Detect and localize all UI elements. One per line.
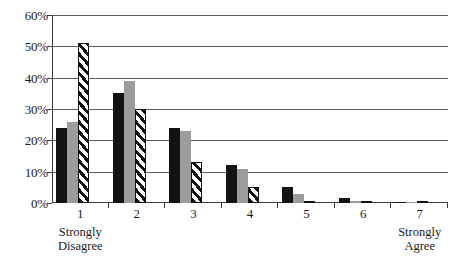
x-category-2: 2 [109,206,166,222]
bar-group [278,15,335,203]
x-category-number: 6 [335,206,392,222]
x-category-1: 1StronglyDisagree [52,206,109,253]
bar-series-3-hatched-cat-2 [135,109,146,203]
bar-series-3-hatched-cat-5 [304,201,315,203]
plot-area [52,15,448,203]
x-category-5: 5 [278,206,335,222]
x-category-number: 7 [391,206,448,222]
anchor-label-strongly-disagree-line2: Disagree [52,239,109,253]
bar-series-2-gray-cat-5 [293,194,304,203]
bar-series-3-hatched-cat-6 [361,201,372,203]
bar-group [391,15,448,203]
y-tick-label: 10% [0,166,48,179]
bar-series-2-gray-cat-1 [67,122,78,203]
bar-series-1-black-cat-1 [56,128,67,203]
x-axis-category-labels: 1StronglyDisagree234567StronglyAgree [52,206,448,276]
bar-series-2-gray-cat-7 [406,202,417,204]
bar-series-3-hatched-cat-4 [248,187,259,203]
bar-series-2-gray-cat-3 [180,131,191,203]
x-category-number: 5 [278,206,335,222]
y-axis-tick-labels: 0%10%20%30%40%50%60% [0,0,48,279]
y-tick-label: 40% [0,72,48,85]
bar-group [52,15,109,203]
anchor-label-strongly-disagree-line1: Strongly [52,225,109,239]
bar-groups [52,15,448,203]
bar-group [165,15,222,203]
y-tick-label: 50% [0,40,48,53]
y-tick-label: 20% [0,134,48,147]
x-category-7: 7StronglyAgree [391,206,448,253]
x-category-number: 2 [109,206,166,222]
bar-series-1-black-cat-3 [169,128,180,203]
x-category-number: 1 [52,206,109,222]
bar-series-1-black-cat-7 [395,202,406,204]
y-tick-label: 60% [0,9,48,22]
bar-series-1-black-cat-2 [113,93,124,203]
y-tick-label: 30% [0,103,48,116]
x-category-6: 6 [335,206,392,222]
bar-series-2-gray-cat-2 [124,81,135,203]
bar-group [335,15,392,203]
x-category-number: 3 [165,206,222,222]
bar-series-3-hatched-cat-3 [191,162,202,203]
x-category-number: 4 [222,206,279,222]
y-tick-mark [47,203,52,204]
bar-series-1-black-cat-6 [339,198,350,203]
x-category-3: 3 [165,206,222,222]
x-category-4: 4 [222,206,279,222]
bar-series-1-black-cat-5 [282,187,293,203]
bar-series-3-hatched-cat-7 [417,201,428,203]
y-tick-label: 0% [0,197,48,210]
bar-series-2-gray-cat-6 [350,201,361,203]
anchor-label-strongly-agree-line2: Agree [391,239,448,253]
survey-likert-bar-chart: 0%10%20%30%40%50%60% 1StronglyDisagree23… [0,0,462,279]
bar-group [222,15,279,203]
anchor-label-strongly-agree-line1: Strongly [391,225,448,239]
bar-series-3-hatched-cat-1 [78,43,89,203]
bar-series-1-black-cat-4 [226,165,237,203]
bar-group [109,15,166,203]
bar-series-2-gray-cat-4 [237,169,248,203]
